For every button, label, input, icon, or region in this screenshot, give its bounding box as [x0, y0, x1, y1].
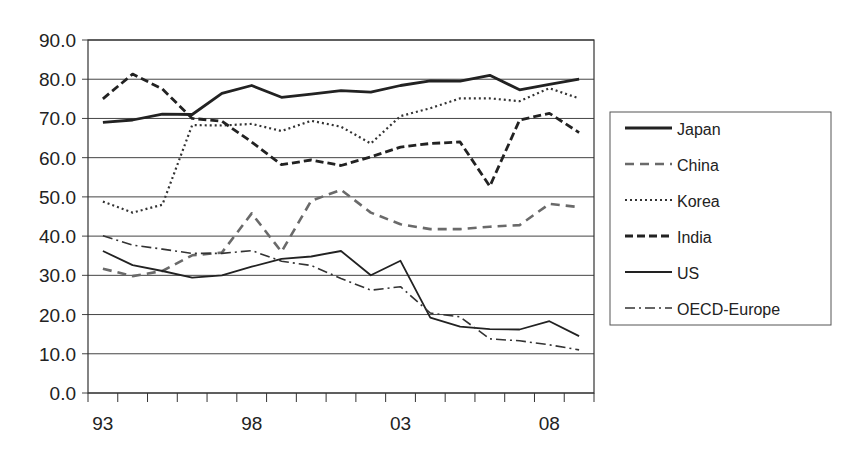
legend-label: China [677, 157, 719, 174]
legend-label: Japan [677, 121, 721, 138]
legend-box [610, 112, 831, 325]
line-chart: 0.010.020.030.040.050.060.070.080.090.0 … [0, 0, 853, 468]
y-axis-tick-labels: 0.010.020.030.040.050.060.070.080.090.0 [39, 30, 76, 404]
series-korea [103, 88, 579, 212]
y-tick-label: 70.0 [39, 108, 76, 129]
y-tick-label: 0.0 [50, 383, 76, 404]
y-tick-label: 30.0 [39, 265, 76, 286]
y-tick-label: 80.0 [39, 69, 76, 90]
y-tick-label: 20.0 [39, 305, 76, 326]
legend-label: US [677, 265, 699, 282]
legend: JapanChinaKoreaIndiaUSOECD-Europe [610, 112, 831, 325]
y-tick-label: 10.0 [39, 344, 76, 365]
x-tick-label: 03 [390, 413, 411, 434]
series-oecd-europe [103, 236, 579, 350]
legend-label: OECD-Europe [677, 301, 780, 318]
y-tick-label: 50.0 [39, 187, 76, 208]
data-series [103, 74, 579, 350]
legend-label: India [677, 229, 712, 246]
series-china [103, 190, 579, 276]
y-tick-label: 60.0 [39, 148, 76, 169]
x-axis: 93980308 [88, 393, 594, 434]
x-tick-label: 08 [539, 413, 560, 434]
series-us [103, 251, 579, 336]
x-tick-label: 93 [92, 413, 113, 434]
y-tick-label: 40.0 [39, 226, 76, 247]
x-tick-label: 98 [241, 413, 262, 434]
y-tick-label: 90.0 [39, 30, 76, 51]
legend-label: Korea [677, 193, 720, 210]
